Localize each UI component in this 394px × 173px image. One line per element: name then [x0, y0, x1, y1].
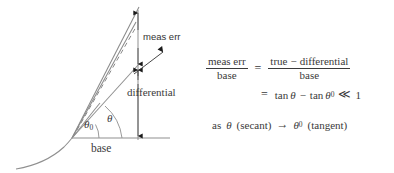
right-arrow-icon: →	[271, 117, 293, 132]
equals-sign-1: =	[248, 61, 269, 76]
tangent-line	[72, 64, 139, 138]
secant-line-lower	[72, 22, 136, 138]
theta-symbol: θ	[107, 112, 112, 124]
theta-argument-1: θ	[288, 89, 295, 101]
tangent-annotation: (tangent)	[303, 119, 348, 131]
tan-function-2: tan	[310, 89, 323, 101]
fraction-numerator: meas err	[206, 56, 248, 68]
meas-err-label: meas err	[143, 31, 180, 42]
secant-annotation: (secant)	[232, 119, 272, 131]
theta-limit-symbol: θ	[221, 119, 231, 131]
dashed-mean-line	[73, 27, 136, 137]
figure-canvas: meas err differential base θ0 θ meas err…	[0, 0, 394, 173]
fraction-denominator: base	[298, 69, 322, 81]
theta-zero-label: θ0	[84, 118, 93, 132]
secant-line	[72, 7, 139, 138]
differential-term: differential	[300, 55, 349, 67]
equation-line-1: meas err base = true−differential base	[206, 52, 361, 84]
function-curve	[16, 103, 100, 169]
differential-label: differential	[127, 86, 176, 98]
base-label: base	[91, 142, 111, 154]
as-keyword: as	[212, 119, 221, 131]
fraction-true-minus-differential-over-base: true−differential base	[268, 56, 350, 81]
theta-label: θ	[107, 112, 112, 124]
true-term: true	[270, 55, 287, 67]
minus-sign-2: −	[296, 89, 310, 101]
theta-zero-subscript: 0	[89, 123, 93, 132]
equals-sign-2: =	[254, 87, 275, 102]
equation-block: meas err base = true−differential base =…	[206, 52, 361, 132]
equation-line-3: as θ (secant) → θ0 (tangent)	[206, 117, 361, 132]
theta-zero-angle-arc	[96, 125, 100, 139]
equation-line-2: = tanθ − tanθ0 ≪ 1	[206, 85, 361, 104]
much-less-than-sign: ≪	[334, 87, 355, 102]
minus-sign: −	[287, 55, 299, 67]
one-value: 1	[355, 89, 361, 101]
fraction-denominator: base	[215, 69, 239, 81]
tan-function-1: tan	[275, 89, 288, 101]
theta-argument-2: θ	[323, 89, 330, 101]
fraction-numerator: true−differential	[268, 56, 350, 68]
fraction-meas-err-over-base: meas err base	[206, 56, 248, 81]
